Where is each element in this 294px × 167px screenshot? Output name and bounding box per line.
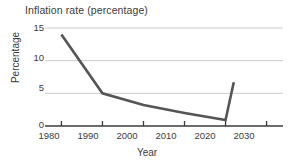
plot-area	[0, 0, 294, 167]
inflation-rate-line-chart: Inflation rate (percentage) Percentage Y…	[0, 0, 294, 167]
data-line-inflation-rate	[61, 35, 233, 121]
